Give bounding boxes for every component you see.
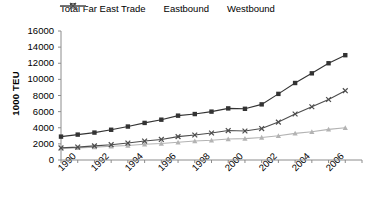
series-total-far-east-trade (59, 53, 348, 139)
line-chart: Total Far East Trade Eastbound Westbound… (0, 0, 370, 201)
plot-area (0, 0, 370, 201)
series-eastbound (58, 125, 347, 150)
